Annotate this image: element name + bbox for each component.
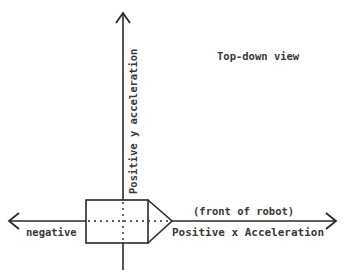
y-axis-label: Positive y acceleration (127, 49, 139, 194)
robot-shape (86, 200, 172, 243)
x-axis-positive-label: Positive x Acceleration (172, 226, 324, 238)
diagram-canvas: Top-down view Positive y acceleration ne… (0, 0, 345, 278)
x-axis-negative-label: negative (26, 226, 77, 238)
axes-diagram: Top-down view Positive y acceleration ne… (0, 0, 345, 278)
front-of-robot-label: (front of robot) (193, 205, 294, 217)
diagram-title: Top-down view (217, 50, 300, 62)
